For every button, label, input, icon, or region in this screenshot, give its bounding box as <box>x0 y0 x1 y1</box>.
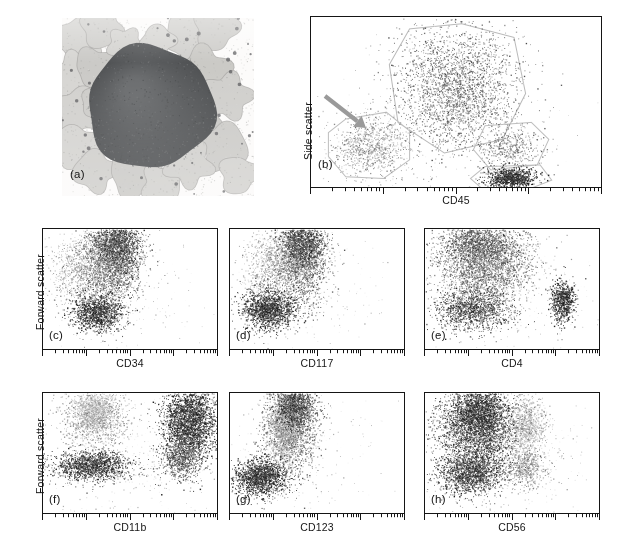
scatter-canvas-f <box>43 393 217 513</box>
panel-h-plot <box>424 392 600 514</box>
x-axis-label-cd45: CD45 <box>310 194 602 206</box>
panel-tag-h: (h) <box>431 493 446 505</box>
panel-tag-f: (f) <box>49 493 60 505</box>
panel-a-micrograph: (a) <box>62 18 254 196</box>
x-axis-label-cd34: CD34 <box>42 357 218 369</box>
scatter-canvas-e <box>425 229 599 349</box>
scatter-canvas-c <box>43 229 217 349</box>
scatter-canvas-d <box>230 229 404 349</box>
x-axis-label-cd11b: CD11b <box>42 521 218 533</box>
panel-d-plot <box>229 228 405 350</box>
x-axis-label-cd123: CD123 <box>229 521 405 533</box>
figure-root: (a) (b) CD45 Side scatter (c) CD34 Forwa… <box>0 0 620 560</box>
panel-tag-d: (d) <box>236 329 251 341</box>
scatter-canvas-h <box>425 393 599 513</box>
panel-e-plot <box>424 228 600 350</box>
panel-c-plot <box>42 228 218 350</box>
panel-tag-e: (e) <box>431 329 446 341</box>
x-axis-label-cd4: CD4 <box>424 357 600 369</box>
y-axis-label-forward-scatter-f: Forward scatter <box>34 418 46 494</box>
panel-f-plot <box>42 392 218 514</box>
panel-tag-g: (g) <box>236 493 251 505</box>
x-axis-label-cd56: CD56 <box>424 521 600 533</box>
y-axis-label-side-scatter: Side scatter <box>302 102 314 160</box>
micrograph-canvas <box>62 18 254 196</box>
panel-g-plot <box>229 392 405 514</box>
blast-population-arrow-icon <box>315 86 376 138</box>
scatter-canvas-g <box>230 393 404 513</box>
panel-tag-a: (a) <box>70 168 85 180</box>
panel-tag-b: (b) <box>318 158 333 170</box>
x-axis-label-cd117: CD117 <box>229 357 405 369</box>
y-axis-label-forward-scatter-c: Forward scatter <box>34 254 46 330</box>
panel-tag-c: (c) <box>49 329 63 341</box>
